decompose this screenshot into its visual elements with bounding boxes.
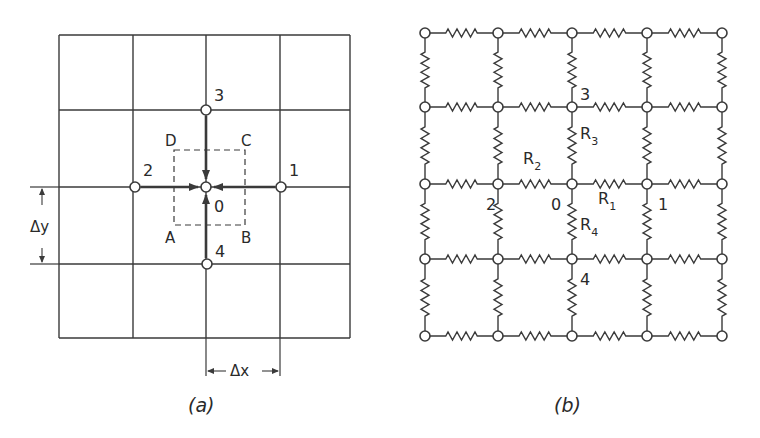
node-label-o: 0 [214,197,224,216]
resistor-horizontal [430,255,493,263]
corner-label-d: D [165,132,177,150]
figure-b-resistor-network: 32014R1R2R3R4 [420,28,727,341]
network-node-r4-c1 [493,331,503,341]
resistor-vertical [421,189,429,254]
figure-a-finite-difference-grid: ΔyΔxDCAB01234 [30,35,350,380]
network-node-label-2: 2 [486,195,496,214]
network-node-label-3: 3 [580,85,590,104]
resistor-horizontal [577,332,642,340]
network-node-r1-c3 [642,102,652,112]
resistor-letter: R [580,124,591,143]
resistor-vertical [421,264,429,331]
network-node-r1-c0 [420,102,430,112]
resistor-letter: R [580,215,591,234]
network-node-r1-c4 [717,102,727,112]
network-node-r0-c4 [717,28,727,38]
resistor-vertical [421,112,429,179]
resistor-vertical [568,38,576,102]
resistor-vertical [494,112,502,179]
network-node-r4-c3 [642,331,652,341]
resistor-label-r2: R2 [523,149,541,173]
diagram-canvas: ΔyΔxDCAB01234 32014R1R2R3R4 (a) (b) [0,0,760,438]
network-node-label-4: 4 [580,270,590,289]
corner-label-c: C [241,132,251,150]
delta-y-label: Δy [30,218,49,236]
resistor-vertical [643,38,651,102]
resistor-horizontal [652,180,717,188]
network-node-r4-c0 [420,331,430,341]
resistor-horizontal [577,180,642,188]
figure-b-caption: (b) [554,394,581,416]
resistor-vertical [568,189,576,254]
resistor-horizontal [430,103,493,111]
resistor-horizontal [577,103,642,111]
network-node-r0-c3 [642,28,652,38]
resistor-vertical [718,264,726,331]
diagram-svg: ΔyΔxDCAB01234 32014R1R2R3R4 (a) (b) [0,0,760,438]
network-node-r4-c2 [567,331,577,341]
resistor-horizontal [430,332,493,340]
resistor-horizontal [503,103,567,111]
network-node-r2-c3 [642,179,652,189]
resistor-horizontal [652,29,717,37]
network-node-r3-c2 [567,254,577,264]
network-node-r2-c1 [493,179,503,189]
resistor-horizontal [430,29,493,37]
resistor-vertical [718,38,726,102]
resistor-horizontal [652,103,717,111]
node-2 [130,182,140,192]
node-o [201,182,211,192]
network-node-r3-c3 [642,254,652,264]
resistor-subscript: 1 [609,200,616,213]
resistor-vertical [718,112,726,179]
network-node-r0-c1 [493,28,503,38]
network-node-r1-c1 [493,102,503,112]
network-node-r0-c2 [567,28,577,38]
node-label-2: 2 [143,161,153,180]
network-node-label-0: 0 [551,195,561,214]
resistor-vertical [643,264,651,331]
network-node-label-1: 1 [658,195,668,214]
resistor-horizontal [503,29,567,37]
resistor-vertical [494,264,502,331]
network-node-r4-c4 [717,331,727,341]
resistor-label-r3: R3 [580,124,598,148]
node-1 [276,182,286,192]
resistor-horizontal [577,29,642,37]
resistor-vertical [643,112,651,179]
delta-x-label: Δx [230,362,249,380]
network-node-r3-c1 [493,254,503,264]
node-label-1: 1 [289,161,299,180]
network-node-r2-c0 [420,179,430,189]
network-node-r1-c2 [567,102,577,112]
network-node-r2-c2 [567,179,577,189]
node-label-4: 4 [215,242,225,261]
network-node-r3-c4 [717,254,727,264]
resistor-vertical [494,38,502,102]
figure-a-caption: (a) [188,394,214,416]
resistor-horizontal [503,180,567,188]
resistor-horizontal [577,255,642,263]
resistor-label-r1: R1 [598,189,616,213]
resistor-horizontal [430,180,493,188]
network-node-r3-c0 [420,254,430,264]
resistor-vertical [421,38,429,102]
resistor-subscript: 3 [591,135,598,148]
network-node-r2-c4 [717,179,727,189]
resistor-horizontal [503,255,567,263]
resistor-letter: R [598,189,609,208]
resistor-vertical [718,189,726,254]
resistor-label-r4: R4 [580,215,598,239]
resistor-vertical [568,264,576,331]
corner-label-b: B [241,229,251,247]
resistor-vertical [643,189,651,254]
resistor-subscript: 4 [591,226,598,239]
network-node-r0-c0 [420,28,430,38]
resistor-horizontal [652,332,717,340]
resistor-horizontal [503,332,567,340]
resistor-letter: R [523,149,534,168]
resistor-horizontal [652,255,717,263]
resistor-subscript: 2 [534,160,541,173]
node-4 [202,259,212,269]
node-label-3: 3 [214,86,224,105]
